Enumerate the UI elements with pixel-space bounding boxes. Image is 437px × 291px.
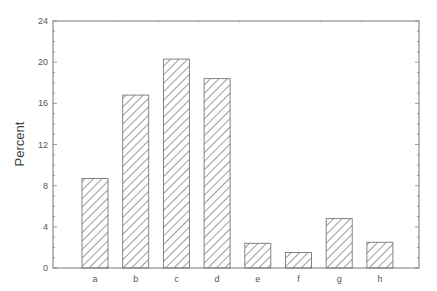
y-tick-label: 12 <box>38 140 48 150</box>
y-tick-label: 16 <box>38 98 48 108</box>
x-tick-label: d <box>215 274 220 284</box>
x-tick-label: f <box>297 274 300 284</box>
x-tick-label: c <box>174 274 179 284</box>
y-tick-label: 0 <box>43 263 48 273</box>
bar-a <box>82 178 108 268</box>
bar-e <box>245 243 271 268</box>
bar-c <box>163 59 189 268</box>
bars <box>82 59 393 268</box>
y-tick-label: 24 <box>38 16 48 26</box>
y-axis-label: Percent <box>12 121 27 166</box>
bar-g <box>326 219 352 268</box>
x-tick-label: e <box>255 274 260 284</box>
bar-h <box>367 242 393 268</box>
bar-f <box>286 253 312 268</box>
x-tick-label: g <box>337 274 342 284</box>
x-tick-label: h <box>377 274 382 284</box>
x-tick-label: a <box>92 274 97 284</box>
bar-b <box>123 95 149 268</box>
bar-d <box>204 79 230 268</box>
bar-chart: 04812162024 abcdefgh Percent <box>0 0 437 291</box>
y-tick-label: 4 <box>43 222 48 232</box>
x-tick-label: b <box>133 274 138 284</box>
y-tick-label: 20 <box>38 57 48 67</box>
y-tick-label: 8 <box>43 181 48 191</box>
